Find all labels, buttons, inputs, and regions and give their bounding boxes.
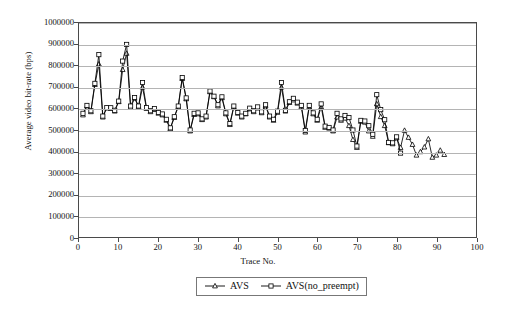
- data-point-marker-square: [295, 100, 299, 104]
- x-axis-tick-label: 40: [223, 243, 253, 252]
- y-axis-title: Average video bit-rate (bps): [23, 11, 33, 191]
- data-point-marker-square: [184, 96, 188, 100]
- data-point-marker-square: [136, 104, 140, 108]
- x-axis-tick-label: 20: [143, 243, 173, 252]
- y-axis-tick-label: 600000: [4, 104, 74, 113]
- data-point-marker-square: [359, 118, 363, 122]
- data-point-marker-square: [121, 59, 125, 63]
- data-point-marker-square: [204, 114, 208, 118]
- data-point-marker-square: [168, 126, 172, 130]
- data-point-marker-square: [271, 117, 275, 121]
- data-point-marker-triangle: [438, 148, 443, 152]
- gridline: [79, 45, 476, 46]
- x-axis-tick-mark: [278, 238, 279, 242]
- data-point-marker-square: [307, 103, 311, 107]
- x-axis-tick-mark: [437, 238, 438, 242]
- y-axis-tick-label: 1000000: [4, 18, 74, 27]
- data-point-marker-square: [140, 80, 144, 84]
- data-series-layer: [79, 23, 476, 237]
- data-point-marker-square: [212, 94, 216, 98]
- data-point-marker-square: [192, 111, 196, 115]
- data-point-marker-square: [196, 111, 200, 115]
- gridline: [79, 217, 476, 218]
- y-axis-tick-label: 900000: [4, 39, 74, 48]
- data-point-marker-square: [228, 121, 232, 125]
- data-point-marker-square: [299, 103, 303, 107]
- data-point-marker-square: [355, 144, 359, 148]
- gridline: [79, 109, 476, 110]
- x-axis-tick-mark: [397, 238, 398, 242]
- x-axis-tick-mark: [317, 238, 318, 242]
- x-axis-tick-mark: [118, 238, 119, 242]
- data-point-marker-square: [236, 110, 240, 114]
- x-axis-tick-label: 60: [302, 243, 332, 252]
- gridline: [79, 66, 476, 67]
- data-point-marker-square: [367, 124, 371, 128]
- data-point-marker-square: [363, 119, 367, 123]
- x-axis-title: Trace No.: [0, 256, 516, 266]
- data-point-marker-triangle: [426, 136, 431, 140]
- y-axis-tick-label: 700000: [4, 82, 74, 91]
- x-axis-tick-label: 100: [462, 243, 492, 252]
- data-point-marker-square: [117, 99, 121, 103]
- data-point-marker-square: [156, 110, 160, 114]
- data-point-marker-square: [291, 96, 295, 100]
- data-point-marker-square: [387, 140, 391, 144]
- data-point-marker-square: [81, 111, 85, 115]
- data-point-marker-square: [172, 115, 176, 119]
- data-point-marker-square: [85, 103, 89, 107]
- x-axis-tick-label: 30: [183, 243, 213, 252]
- x-axis-tick-mark: [78, 238, 79, 242]
- data-point-marker-square: [180, 75, 184, 79]
- legend-label: AVS: [230, 280, 249, 292]
- data-point-marker-square: [323, 124, 327, 128]
- data-point-marker-square: [224, 111, 228, 115]
- gridline: [79, 88, 476, 89]
- data-point-marker-square: [395, 135, 399, 139]
- data-point-marker-square: [347, 116, 351, 120]
- chart-figure: 0100000200000300000400000500000600000700…: [0, 0, 516, 310]
- data-point-marker-square: [97, 53, 101, 57]
- x-axis-tick-label: 0: [63, 243, 93, 252]
- plot-area: [78, 22, 477, 238]
- x-axis-tick-mark: [158, 238, 159, 242]
- data-point-marker-square: [232, 104, 236, 108]
- legend-entry[interactable]: AVS(no_preempt): [260, 280, 359, 292]
- x-axis-tick-label: 10: [103, 243, 133, 252]
- data-point-marker-triangle: [406, 135, 411, 139]
- data-point-marker-square: [375, 93, 379, 97]
- gridline: [79, 153, 476, 154]
- data-point-marker-square: [335, 111, 339, 115]
- gridline: [79, 131, 476, 132]
- y-axis-tick-label: 800000: [4, 61, 74, 70]
- gridline: [79, 23, 476, 24]
- y-axis-tick-label: 400000: [4, 147, 74, 156]
- data-point-marker-square: [240, 114, 244, 118]
- legend-entry[interactable]: AVS: [204, 280, 249, 292]
- y-axis-tick-label: 100000: [4, 212, 74, 221]
- gridline: [79, 174, 476, 175]
- data-point-marker-square: [339, 117, 343, 121]
- data-point-marker-square: [256, 105, 260, 109]
- data-point-marker-square: [287, 100, 291, 104]
- data-point-marker-square: [315, 117, 319, 121]
- data-point-marker-square: [327, 125, 331, 129]
- data-point-marker-square: [220, 95, 224, 99]
- data-point-marker-square: [391, 141, 395, 145]
- x-axis-tick-mark: [198, 238, 199, 242]
- data-point-marker-triangle: [422, 145, 427, 149]
- data-point-marker-square: [264, 103, 268, 107]
- data-point-marker-square: [383, 118, 387, 122]
- legend-label: AVS(no_preempt): [286, 280, 359, 292]
- x-axis-tick-label: 80: [382, 243, 412, 252]
- data-point-marker-triangle: [410, 142, 415, 146]
- data-point-marker-square: [164, 117, 168, 121]
- x-axis-tick-mark: [477, 238, 478, 242]
- data-point-marker-square: [311, 111, 315, 115]
- data-point-marker-square: [208, 89, 212, 93]
- data-point-marker-triangle: [120, 67, 125, 71]
- data-point-marker-square: [279, 80, 283, 84]
- data-point-marker-square: [319, 102, 323, 106]
- x-axis-tick-label: 90: [422, 243, 452, 252]
- x-axis-tick-label: 50: [263, 243, 293, 252]
